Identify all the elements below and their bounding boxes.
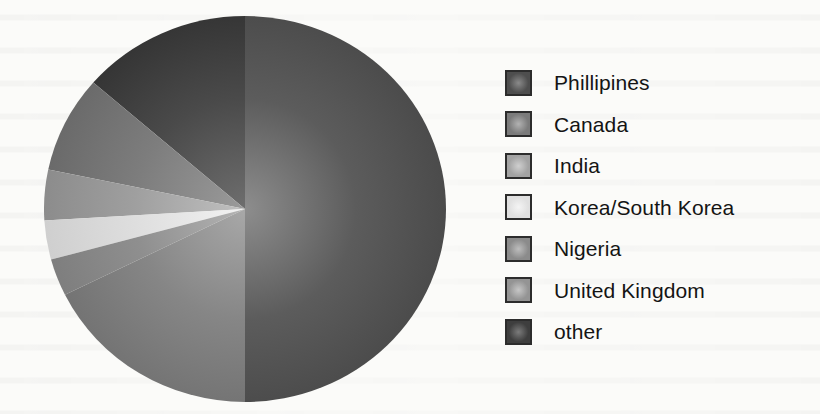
legend-swatch-icon (505, 111, 532, 137)
legend-item[interactable]: Korea/South Korea (505, 187, 815, 229)
legend-item[interactable]: Nigeria (505, 228, 815, 270)
legend-item-label: other (554, 321, 602, 342)
legend-swatch-icon (505, 70, 532, 96)
pie-slice[interactable] (245, 16, 446, 402)
legend-item-label: Nigeria (554, 238, 621, 259)
legend-item[interactable]: India (505, 145, 815, 187)
legend-swatch-icon (505, 236, 532, 262)
legend-item-label: India (554, 155, 600, 176)
legend-item-label: Canada (554, 114, 628, 135)
pie-graphic (44, 16, 446, 402)
legend-item[interactable]: United Kingdom (505, 270, 815, 312)
legend-item[interactable]: other (505, 311, 815, 353)
legend-swatch-icon (505, 194, 532, 220)
legend-item-label: Phillipines (554, 72, 650, 93)
legend-swatch-icon (505, 277, 532, 303)
legend-swatch-icon (505, 319, 532, 345)
legend-item[interactable]: Canada (505, 104, 815, 146)
legend-item-label: Korea/South Korea (554, 197, 734, 218)
legend: Phillipines Canada India Korea/South Kor… (505, 62, 815, 353)
legend-item[interactable]: Phillipines (505, 62, 815, 104)
pie-chart-figure: Phillipines Canada India Korea/South Kor… (0, 0, 820, 414)
legend-item-label: United Kingdom (554, 280, 705, 301)
legend-swatch-icon (505, 153, 532, 179)
pie-svg (44, 16, 446, 402)
